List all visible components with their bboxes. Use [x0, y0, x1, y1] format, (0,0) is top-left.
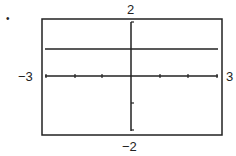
window-frame [42, 19, 222, 135]
graph-window [0, 0, 236, 156]
